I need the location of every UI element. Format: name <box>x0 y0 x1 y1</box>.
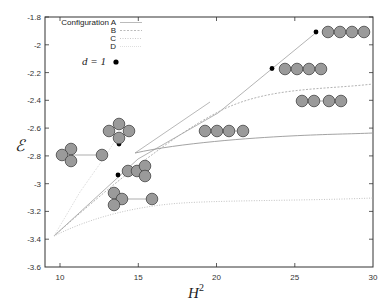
config-three-plus-one <box>199 125 249 137</box>
y-tick-label: -3.2 <box>27 207 41 216</box>
y-tick-label: -3.4 <box>27 235 41 244</box>
legend: Configuration A B C D <box>61 18 142 51</box>
marker-point <box>270 66 275 71</box>
y-tick-label: -2.4 <box>27 96 41 105</box>
y-tick-label: -3.6 <box>27 263 41 272</box>
x-tick-label: 20 <box>212 273 221 282</box>
x-tick-label: 15 <box>134 273 143 282</box>
x-tick-labels: 10 15 20 25 30 <box>56 273 378 282</box>
x-axis-label: H2 <box>187 282 204 301</box>
marker-d1-legend <box>113 59 118 64</box>
series-c-line <box>54 198 373 236</box>
config-triangle-plus-one-lower <box>108 187 158 211</box>
x-tick-label: 10 <box>56 273 65 282</box>
y-tick-label: -2.6 <box>27 124 41 133</box>
x-tick-label: 30 <box>369 273 378 282</box>
y-tick-label: -2 <box>34 41 42 50</box>
data-markers <box>116 30 319 178</box>
y-tick-label: -2.2 <box>27 69 41 78</box>
chart-figure: -1.8 -2 -2.2 -2.4 -2.6 -2.8 -3 -3.2 -3.4… <box>0 0 390 307</box>
y-tick-label: -1.8 <box>27 13 41 22</box>
legend-label-d: D <box>110 42 116 51</box>
y-tick-label: -3 <box>34 180 42 189</box>
extra-solid-branch <box>135 102 210 153</box>
legend-label-a: Configuration A <box>61 18 116 27</box>
config-diagrams <box>56 26 370 211</box>
x-tick-label: 25 <box>290 273 299 282</box>
annotation-d-equals-1: d = 1 <box>82 55 106 67</box>
config-two-plus-triangle <box>122 160 151 182</box>
y-axis-label: ℰ <box>15 137 27 154</box>
marker-point <box>314 30 319 35</box>
config-diamond <box>103 118 135 144</box>
extra-solid-line <box>135 133 373 153</box>
y-tick-labels: -1.8 -2 -2.2 -2.4 -2.6 -2.8 -3 -3.2 -3.4… <box>27 13 41 272</box>
config-pairs <box>296 95 347 107</box>
y-tick-label: -2.8 <box>27 152 41 161</box>
marker-point <box>116 173 121 178</box>
config-row-4-mid <box>279 63 327 75</box>
config-row-4-top <box>322 26 370 38</box>
